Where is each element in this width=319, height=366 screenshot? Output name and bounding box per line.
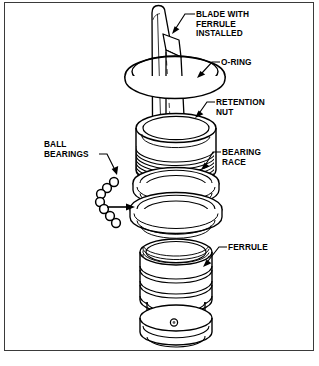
ferrule-boss-detail bbox=[170, 319, 177, 326]
part-ferrule bbox=[140, 239, 212, 347]
part-ball-bearings bbox=[96, 178, 121, 228]
callout-ball-bearings-line1: BALL bbox=[44, 139, 67, 149]
callout-blade-line1: BLADE WITH bbox=[196, 9, 249, 19]
callout-label-o-ring: O-RING bbox=[221, 58, 252, 68]
callout-label-ball-bearings: BALLBEARINGS bbox=[44, 140, 89, 159]
callout-retention-nut-line2: NUT bbox=[216, 107, 233, 117]
figure-page: BLADE WITHFERRULEINSTALLED O-RING RETENT… bbox=[0, 0, 319, 366]
leader-retention-nut bbox=[195, 102, 215, 118]
callout-label-ferrule: FERRULE bbox=[228, 243, 268, 253]
callout-label-retention-nut: RETENTIONNUT bbox=[216, 98, 265, 117]
callout-ferrule-line1: FERRULE bbox=[228, 242, 268, 252]
callout-blade-line3: INSTALLED bbox=[196, 28, 243, 38]
callout-label-blade: BLADE WITHFERRULEINSTALLED bbox=[196, 10, 249, 39]
leader-blade bbox=[172, 14, 195, 34]
callout-retention-nut-line1: RETENTION bbox=[216, 97, 265, 107]
leader-ball-bearings bbox=[99, 154, 118, 175]
callout-bearing-race-line1: BEARING bbox=[222, 147, 261, 157]
callout-o-ring-line1: O-RING bbox=[221, 57, 252, 67]
callout-label-bearing-race: BEARINGRACE bbox=[222, 148, 261, 167]
exploded-assembly-illustration bbox=[0, 0, 319, 366]
callout-bearing-race-line2: RACE bbox=[222, 157, 246, 167]
part-bearing-race-lower bbox=[130, 193, 222, 239]
callout-blade-line2: FERRULE bbox=[196, 19, 236, 29]
callout-ball-bearings-line2: BEARINGS bbox=[44, 149, 89, 159]
